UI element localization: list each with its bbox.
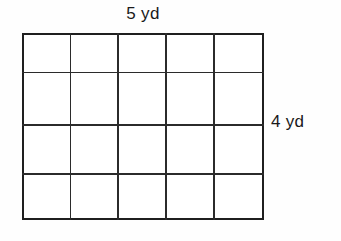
grid-outer-border — [23, 34, 263, 219]
grid-rectangle — [22, 33, 264, 220]
figure-canvas: 5 yd 4 yd — [0, 0, 341, 241]
grid-svg — [22, 33, 264, 220]
right-dimension-label: 4 yd — [271, 111, 304, 133]
top-dimension-label: 5 yd — [22, 3, 264, 25]
